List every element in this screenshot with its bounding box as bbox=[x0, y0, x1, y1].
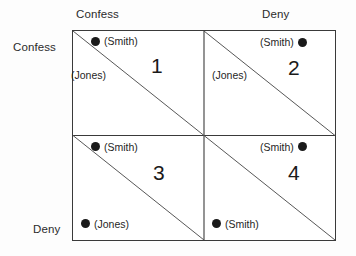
payoff-marker-cell1-smith: (Smith) bbox=[91, 36, 138, 47]
cell-number-3: 3 bbox=[153, 162, 165, 183]
payoff-marker-cell1-jones: (Jones) bbox=[71, 49, 106, 81]
payoff-marker-label: (Jones) bbox=[212, 70, 247, 81]
payoff-marker-label: (Smith) bbox=[104, 36, 138, 47]
payoff-matrix-figure: Confess Deny Confess Deny 1 (Smith) (Jon… bbox=[0, 0, 356, 256]
payoff-dot-icon bbox=[81, 219, 90, 228]
payoff-marker-label: (Smith) bbox=[260, 142, 294, 153]
column-header-confess: Confess bbox=[76, 8, 119, 20]
payoff-marker-cell3-jones: (Jones) bbox=[81, 219, 129, 230]
payoff-marker-label: (Jones) bbox=[94, 219, 129, 230]
matrix-cell-4: 4 (Smith) (Smith) bbox=[204, 136, 335, 241]
matrix-cell-1: 1 (Smith) (Jones) bbox=[73, 31, 204, 136]
payoff-marker-label: (Smith) bbox=[225, 219, 259, 230]
payoff-dot-icon bbox=[298, 38, 307, 47]
matrix-grid: 1 (Smith) (Jones) 2 (Smith) (Jones) bbox=[72, 30, 336, 241]
cell-number-1: 1 bbox=[151, 55, 163, 76]
payoff-dot-icon bbox=[212, 219, 221, 228]
matrix-cell-3: 3 (Smith) (Jones) bbox=[73, 136, 204, 241]
payoff-marker-label: (Smith) bbox=[104, 142, 138, 153]
payoff-dot-icon bbox=[91, 142, 100, 151]
payoff-marker-cell4-smith-bottom: (Smith) bbox=[212, 219, 259, 230]
row-header-deny: Deny bbox=[33, 223, 60, 235]
payoff-dot-icon bbox=[298, 142, 307, 151]
row-header-confess: Confess bbox=[13, 41, 56, 53]
cell-number-2: 2 bbox=[288, 57, 300, 78]
payoff-marker-cell3-smith: (Smith) bbox=[91, 142, 138, 153]
payoff-dot-icon bbox=[91, 37, 100, 46]
cell-number-4: 4 bbox=[288, 162, 300, 183]
column-header-deny: Deny bbox=[262, 8, 289, 20]
matrix-cell-2: 2 (Smith) (Jones) bbox=[204, 31, 335, 136]
payoff-marker-cell4-smith-top: (Smith) bbox=[260, 142, 307, 153]
payoff-marker-cell2-jones: (Jones) bbox=[212, 49, 247, 81]
payoff-marker-label: (Smith) bbox=[260, 37, 294, 48]
payoff-marker-cell2-smith: (Smith) bbox=[260, 37, 307, 48]
payoff-marker-label: (Jones) bbox=[71, 70, 106, 81]
